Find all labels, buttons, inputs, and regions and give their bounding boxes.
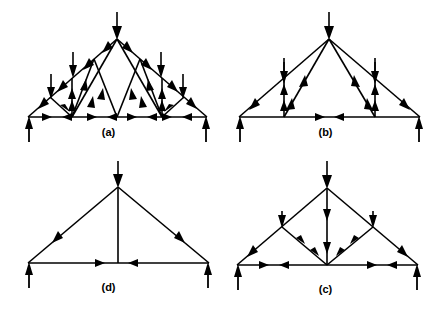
- load-arrow-a-3: [112, 12, 122, 40]
- load-arrow-c-1: [278, 211, 286, 228]
- member-arrowheads-a-bottom: [42, 113, 192, 121]
- panel-label-c: (c): [217, 283, 434, 295]
- panel-label-a: (a): [0, 126, 217, 138]
- load-arrows-a: [47, 12, 187, 99]
- load-arrow-d-1: [113, 161, 123, 188]
- top-chord-b: [239, 39, 420, 117]
- member-arrowheads-b-top: [249, 98, 410, 110]
- truss-diagram-a: (a): [0, 0, 217, 155]
- truss-diagram-d: (d): [0, 155, 217, 310]
- load-arrow-a-5: [179, 74, 187, 99]
- top-chord-a: [28, 39, 207, 117]
- member-arrowheads-a-top: [38, 41, 197, 109]
- truss-diagram-b: (b): [217, 0, 434, 155]
- load-arrow-b-2: [324, 12, 334, 40]
- web-members-a-right: [117, 39, 184, 117]
- panel-label-b: (b): [217, 126, 434, 138]
- web-members-b: [284, 39, 375, 117]
- member-arrowheads-b-web: [280, 75, 379, 111]
- load-arrows-b: [280, 12, 379, 84]
- load-arrows-d: [113, 161, 123, 188]
- panel-label-d: (d): [0, 281, 217, 293]
- figure-sheet: (a): [0, 0, 435, 310]
- web-members-c: [282, 188, 373, 265]
- truss-diagram-c: (c): [217, 155, 434, 310]
- load-arrow-c-2: [322, 161, 332, 189]
